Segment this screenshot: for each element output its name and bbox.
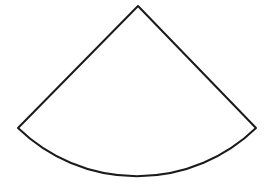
circular-sector-shape bbox=[18, 6, 256, 176]
sector-diagram bbox=[0, 0, 267, 187]
diagram-canvas bbox=[0, 0, 267, 187]
